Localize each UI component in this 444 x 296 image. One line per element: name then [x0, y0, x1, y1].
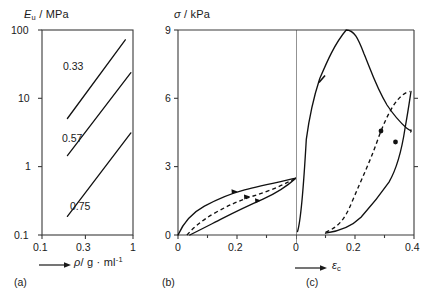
- panel-a-ytick-100: 100: [11, 24, 29, 36]
- panel-a-ytick-10: 10: [18, 92, 30, 104]
- panel-b-ytick-3: 3: [165, 160, 171, 172]
- panel-a-xlabel: ρ/ g · ml-1: [74, 256, 123, 268]
- panel-a-xtick-1: 1: [130, 241, 136, 253]
- panel-c-dot-dashed: [379, 129, 384, 134]
- panel-b-curve-upper: [178, 178, 296, 235]
- panel-a: Eu / MPa 100 10 1 0.1 0.1: [0, 0, 148, 296]
- panel-a-xtick-03: 0.3: [76, 241, 91, 253]
- panel-b-xtick-02: 0.2: [228, 241, 243, 253]
- figure-root: Eu / MPa 100 10 1 0.1 0.1: [0, 0, 444, 296]
- panel-a-ytick-1: 1: [25, 160, 31, 172]
- panel-c-id: (c): [306, 276, 318, 288]
- panel-b-ytick-0: 0: [165, 229, 171, 241]
- panel-c-xlabel: εc: [332, 259, 341, 271]
- panel-c-plot: [296, 0, 444, 296]
- panel-a-xtick-01: 0.1: [33, 241, 48, 253]
- panel-a-xlabel-arrow-icon: [38, 259, 72, 271]
- panel-b-ytick-6: 6: [165, 92, 171, 104]
- panel-b-ytick-9: 9: [165, 24, 171, 36]
- panel-c-xlabel-arrow-icon: [294, 262, 328, 274]
- panel-b: σ / kPa: [148, 0, 296, 296]
- panel-c-xtick-0: 0: [293, 241, 299, 253]
- panel-b-arrow-lower: [255, 198, 261, 203]
- panel-a-label-075: 0.75: [70, 200, 90, 212]
- panel-c-xtick-02: 0.2: [346, 241, 361, 253]
- panel-c: 0 0.2 0.4 εc (c): [296, 0, 444, 296]
- panel-c-curve-peak: [298, 30, 412, 232]
- panel-c-dot-unload: [393, 140, 398, 145]
- curve-033: [67, 40, 125, 119]
- panel-a-ytick-01: 0.1: [14, 229, 29, 241]
- panel-b-id: (b): [162, 276, 175, 288]
- panel-c-curve-unload: [326, 92, 412, 234]
- panel-a-label-057: 0.57: [62, 132, 82, 144]
- panel-a-label-033: 0.33: [63, 60, 83, 72]
- panel-b-plot: [148, 0, 296, 296]
- panel-c-xtick-04: 0.4: [405, 241, 420, 253]
- panel-b-xtick-0: 0: [175, 241, 181, 253]
- panel-a-id: (a): [14, 276, 27, 288]
- panel-a-plot: [0, 0, 148, 296]
